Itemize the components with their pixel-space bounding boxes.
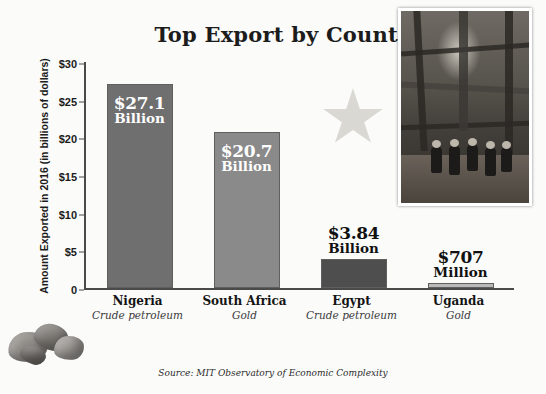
oil-rig-workers-photo xyxy=(398,8,532,206)
category-labels: NigeriaCrude petroleumSouth AfricaGoldEg… xyxy=(84,294,514,334)
bar-unit: Billion xyxy=(307,242,401,256)
y-axis-tick-mark xyxy=(79,252,84,253)
bar-value-label: $20.7Billion xyxy=(200,143,294,174)
category-product: Gold xyxy=(191,309,298,321)
rock-decoration xyxy=(6,320,86,366)
y-axis-tick-mark xyxy=(79,101,84,102)
category-country: Nigeria xyxy=(84,294,191,308)
bar-slot: $3.84Billion xyxy=(321,62,387,288)
y-axis-tick-mark xyxy=(79,139,84,140)
bar-egypt[interactable] xyxy=(321,259,387,288)
y-axis-tick-mark xyxy=(79,214,84,215)
source-note: Source: MIT Observatory of Economic Comp… xyxy=(0,368,546,378)
bar-value-label: $707Million xyxy=(414,249,508,280)
bar-value-label: $3.84Billion xyxy=(307,225,401,256)
bar-uganda[interactable] xyxy=(428,283,494,288)
category-nigeria: NigeriaCrude petroleum xyxy=(84,294,191,321)
category-egypt: EgyptCrude petroleum xyxy=(298,294,405,321)
bar-unit: Billion xyxy=(200,160,294,174)
category-product: Gold xyxy=(405,309,512,321)
chart-page: Top Export by Country Amount Exported in… xyxy=(0,0,546,394)
y-axis-title: Amount Exported in 2016 (in billions of … xyxy=(38,46,50,306)
category-country: South Africa xyxy=(191,294,298,308)
x-axis-line xyxy=(84,288,514,290)
bar-slot: $27.1Billion xyxy=(107,62,173,288)
bar-unit: Million xyxy=(414,266,508,280)
category-country: Uganda xyxy=(405,294,512,308)
y-axis-tick-mark xyxy=(79,290,84,291)
category-uganda: UgandaGold xyxy=(405,294,512,321)
y-axis-tick-mark xyxy=(79,177,84,178)
category-product: Crude petroleum xyxy=(84,309,191,321)
bar-value-label: $27.1Billion xyxy=(93,95,187,126)
category-country: Egypt xyxy=(298,294,405,308)
category-south-africa: South AfricaGold xyxy=(191,294,298,321)
category-product: Crude petroleum xyxy=(298,309,405,321)
bar-unit: Billion xyxy=(93,112,187,126)
bar-slot: $20.7Billion xyxy=(214,62,280,288)
y-axis-tick-mark xyxy=(79,64,84,65)
